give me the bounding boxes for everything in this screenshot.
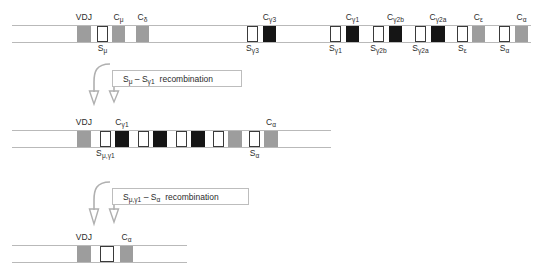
sublabel-s-epsilon: Sε: [458, 43, 467, 54]
label-c-gamma3: Cγ3: [263, 12, 276, 23]
germline-locus-labels: VDJSμCμCδSγ3Cγ3Sγ1Cγ1Sγ2bCγ2bSγ2aCγ2aSεC…: [0, 0, 543, 60]
label-c-alpha: Cα: [266, 117, 276, 128]
sublabel-s-gamma3: Sγ3: [246, 43, 259, 54]
post-first-recombination-labels: VDJSμ,γ1Cγ1SαCα: [0, 105, 543, 165]
label-vdj: VDJ: [76, 117, 92, 127]
second-recombination-text: Sμ,γ1 – Sαrecombination: [123, 192, 219, 202]
label-c-alpha: Cα: [516, 12, 526, 23]
sublabel-s-alpha: Sα: [500, 43, 510, 54]
first-recombination-label: Sμ – Sγ1recombination: [112, 70, 242, 87]
sublabel-s-gamma2a: Sγ2a: [412, 43, 429, 54]
label-c-gamma1: Cγ1: [346, 12, 359, 23]
post-second-recombination-labels: VDJCα: [0, 220, 543, 271]
sublabel-s-gamma1: Sγ1: [329, 43, 342, 54]
label-vdj: VDJ: [76, 232, 92, 242]
sublabel-s-gamma2b: Sγ2b: [370, 43, 387, 54]
label-vdj: VDJ: [76, 12, 92, 22]
label-c-alpha: Cα: [121, 232, 131, 243]
label-c-delta: Cδ: [137, 12, 147, 23]
sublabel-s-mu-gamma1: Sμ,γ1: [96, 148, 115, 159]
label-c-mu: Cμ: [113, 12, 123, 23]
label-c-gamma2a: Cγ2a: [429, 12, 446, 23]
sublabel-s-alpha: Sα: [250, 148, 260, 159]
second-recombination-label: Sμ,γ1 – Sαrecombination: [112, 188, 249, 205]
label-c-epsilon: Cε: [474, 12, 483, 23]
label-c-gamma1: Cγ1: [115, 117, 128, 128]
first-recombination-text: Sμ – Sγ1recombination: [123, 74, 213, 84]
sublabel-s-mu: Sμ: [98, 43, 108, 54]
label-c-gamma2b: Cγ2b: [387, 12, 404, 23]
